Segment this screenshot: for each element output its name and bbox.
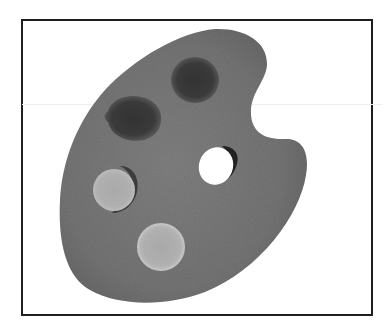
light-paint-bottom bbox=[138, 224, 184, 270]
palette-illustration bbox=[0, 0, 389, 335]
dark-paint-top bbox=[171, 57, 219, 103]
light-paint-middle bbox=[93, 169, 135, 211]
